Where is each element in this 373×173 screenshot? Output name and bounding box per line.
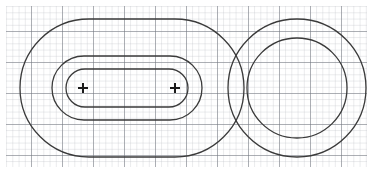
figure-container: Nested stadium-shaped closed contours en… [0,0,373,173]
contour-diagram-canvas [0,0,373,173]
grid-fill [6,6,367,167]
graph-paper-grid [6,6,367,167]
